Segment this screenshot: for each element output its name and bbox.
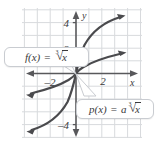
- equation-p: p(x) = a 3 √ x: [89, 102, 141, 115]
- y-axis-arrow-down: [73, 129, 80, 137]
- x-axis-arrow-right: [130, 70, 138, 77]
- equation-p-equals: =: [111, 103, 117, 115]
- equation-p-radical-index: 3: [128, 101, 131, 107]
- callout-p-pointer: [76, 74, 96, 96]
- equation-f-funcname: f(x): [25, 51, 40, 63]
- y-tick-label-4: 4: [64, 17, 70, 29]
- curve-f-arrow-right: [118, 50, 127, 56]
- x-tick-label-2: 2: [100, 75, 106, 87]
- callout-label-f: f(x) = 3 √ x: [4, 47, 89, 67]
- x-axis-label: x: [129, 77, 135, 88]
- callout-label-p: p(x) = a 3 √ x: [76, 99, 154, 119]
- coordinate-plane: 4 2 –4 –2 2 y x: [0, 0, 156, 144]
- graph-figure: 4 2 –4 –2 2 y x f(x) = 3 √ x p(x) = a: [0, 0, 156, 144]
- equation-p-funcname: p(x): [89, 103, 107, 115]
- x-axis-arrow-left: [26, 70, 34, 77]
- y-axis-arrow-up: [73, 11, 80, 19]
- y-axis-label: y: [81, 10, 87, 21]
- cube-root-icon: 3 √ x: [56, 50, 68, 63]
- x-tick-label-neg2: –2: [44, 76, 57, 88]
- equation-f: f(x) = 3 √ x: [25, 50, 68, 63]
- equation-p-coefficient: a: [121, 103, 127, 115]
- y-tick-label-neg4: –4: [57, 119, 70, 131]
- cube-root-icon: 3 √ x: [128, 102, 140, 115]
- equation-f-equals: =: [44, 51, 50, 63]
- equation-f-radical-index: 3: [56, 49, 59, 55]
